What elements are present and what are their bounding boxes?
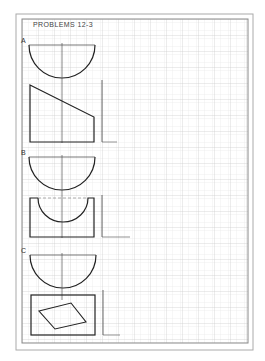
problem-label-a: A — [21, 37, 26, 44]
drawing-sheet — [0, 0, 265, 361]
grid-area — [22, 19, 248, 343]
problem-label-b: B — [21, 149, 26, 156]
sheet-title: PROBLEMS 12-3 — [33, 21, 93, 28]
problem-label-c: C — [21, 247, 26, 254]
